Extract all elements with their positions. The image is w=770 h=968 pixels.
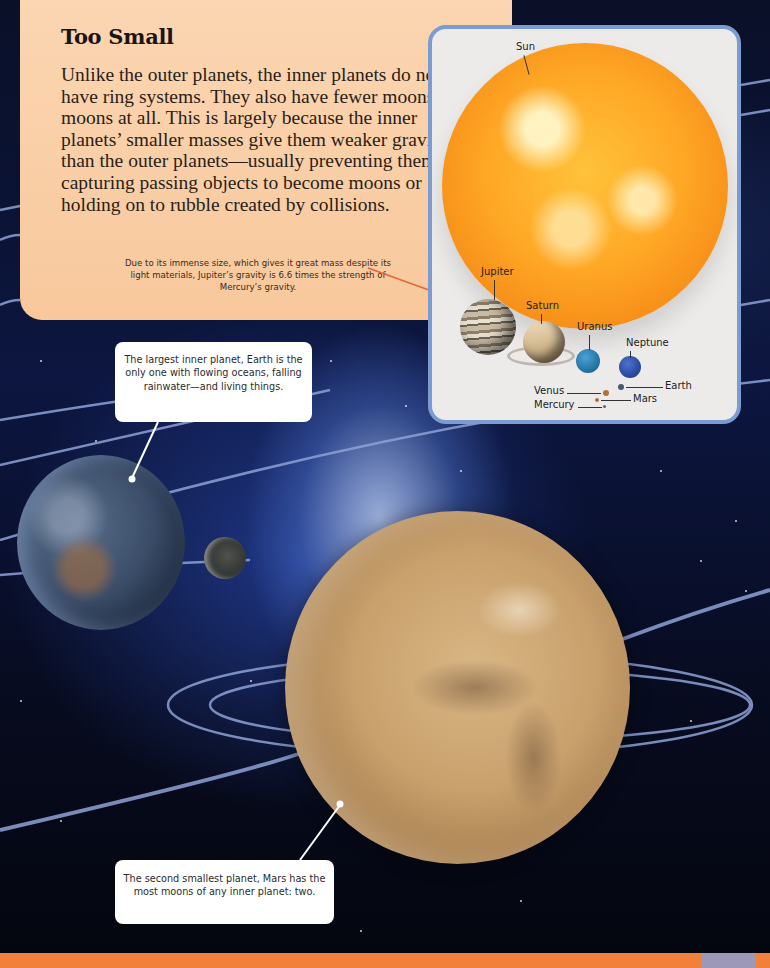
callout-pointers xyxy=(0,0,770,968)
bottom-color-bar-accent xyxy=(702,953,756,968)
mars-callout: The second smallest planet, Mars has the… xyxy=(115,860,334,924)
bottom-color-bar xyxy=(0,953,770,968)
